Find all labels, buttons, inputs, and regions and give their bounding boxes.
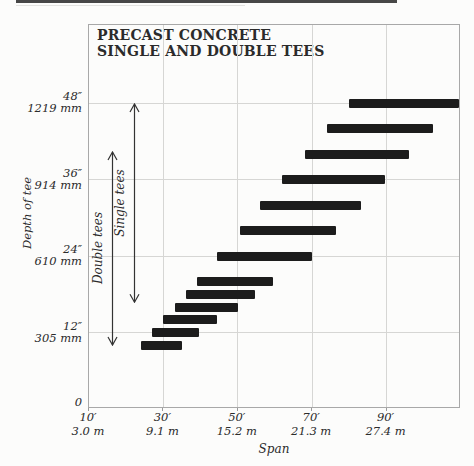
x-tick-metric: 3.0 m — [56, 425, 120, 439]
x-tick-label-90: 90′27.4 m — [354, 411, 418, 438]
x-tick-feet: 70′ — [279, 411, 343, 425]
page-top-rule-shadow — [16, 5, 245, 6]
span-bar-14in — [163, 315, 217, 324]
book-figure-page: PRECAST CONCRETE SINGLE AND DOUBLE TEES … — [0, 0, 474, 466]
x-tick-feet: 10′ — [56, 411, 120, 425]
y-tick-label-24: 24″610 mm — [22, 243, 82, 267]
span-bar-24in — [217, 252, 312, 261]
x-tick-label-10: 10′3.0 m — [56, 411, 120, 438]
x-tick-metric: 27.4 m — [354, 425, 418, 439]
span-bar-40in — [305, 150, 409, 159]
arrow-label-double-tees: Double tees — [91, 203, 105, 293]
range-arrow-single-tees — [128, 103, 141, 303]
x-tick-metric: 21.3 m — [279, 425, 343, 439]
y-tick-metric: 610 mm — [22, 255, 82, 267]
y-tick-label-12: 12″305 mm — [22, 320, 82, 344]
span-bar-36in — [282, 175, 384, 184]
x-tick-label-30: 30′9.1 m — [130, 411, 194, 438]
gridline-x-50 — [237, 25, 238, 407]
x-tick-label-70: 70′21.3 m — [279, 411, 343, 438]
range-arrow-double-tees — [106, 151, 119, 346]
x-axis-label: Span — [224, 442, 324, 456]
gridline-x-90 — [386, 25, 387, 407]
span-bar-44in — [327, 124, 433, 133]
gridline-y-12 — [89, 332, 459, 333]
span-bar-32in — [260, 201, 360, 210]
x-tick-metric: 9.1 m — [130, 425, 194, 439]
span-bar-28in — [240, 226, 337, 235]
plot-area: Single teesDouble tees — [88, 24, 460, 408]
y-axis-origin-label: 0 — [52, 395, 82, 409]
x-tick-metric: 15.2 m — [205, 425, 269, 439]
x-tick-feet: 30′ — [130, 411, 194, 425]
y-tick-inches: 12″ — [22, 320, 82, 332]
span-bar-10in — [141, 341, 182, 350]
y-tick-label-36: 36″914 mm — [22, 167, 82, 191]
span-bar-16in — [175, 303, 238, 312]
y-tick-label-48: 48″1219 mm — [22, 90, 82, 114]
x-tick-feet: 90′ — [354, 411, 418, 425]
page-top-rule — [16, 0, 397, 3]
y-tick-metric: 914 mm — [22, 179, 82, 191]
y-tick-inches: 36″ — [22, 167, 82, 179]
gridline-x-70 — [312, 25, 313, 407]
span-bar-20in — [197, 277, 273, 286]
gridline-y-36 — [89, 179, 459, 180]
x-tick-feet: 50′ — [205, 411, 269, 425]
span-bar-48in — [349, 99, 459, 108]
y-tick-metric: 1219 mm — [22, 102, 82, 114]
span-bar-12in — [152, 328, 199, 337]
y-tick-metric: 305 mm — [22, 332, 82, 344]
span-bar-18in — [186, 290, 255, 299]
x-tick-label-50: 50′15.2 m — [205, 411, 269, 438]
